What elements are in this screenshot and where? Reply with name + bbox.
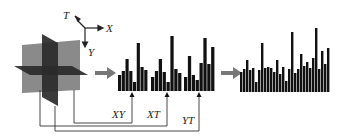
histogram-bar <box>196 80 199 91</box>
arrow-right-icon <box>221 67 242 79</box>
histogram-bar <box>291 32 293 92</box>
histogram-bar <box>285 81 287 92</box>
histogram-bar <box>118 75 121 91</box>
histogram-bar <box>270 68 272 92</box>
histogram-bar <box>309 68 311 92</box>
diagram: T X Y XY XT YT <box>0 0 339 140</box>
histogram-bar <box>312 58 314 92</box>
histogram-bar <box>246 60 248 92</box>
plane-label-yt: YT <box>182 114 195 126</box>
histogram-bar <box>294 73 296 92</box>
histogram-bar <box>282 67 284 92</box>
plane-label-xt: XT <box>146 108 161 120</box>
video-volume-planes <box>14 34 88 106</box>
histogram-bar <box>184 77 187 91</box>
histogram-bar <box>174 69 177 91</box>
histogram-bar <box>155 71 158 91</box>
histogram-bar <box>203 38 206 91</box>
histogram-bar <box>324 64 326 92</box>
histogram-bar <box>252 68 254 92</box>
histogram-yt <box>184 38 214 91</box>
histogram-bar <box>192 75 195 91</box>
histogram-bar <box>249 70 251 92</box>
histogram-bar <box>255 82 257 92</box>
histogram-xy <box>118 43 147 91</box>
histogram-bar <box>315 28 317 92</box>
histogram-bar <box>167 82 170 91</box>
histogram-bar <box>264 68 266 92</box>
histogram-bar <box>207 64 210 91</box>
histogram-bar <box>288 69 290 92</box>
histogram-bar <box>141 67 144 91</box>
histogram-bar <box>258 70 260 92</box>
histogram-bar <box>303 66 305 92</box>
histogram-bar <box>159 59 162 91</box>
histogram-bar <box>122 71 125 91</box>
axis-label-t: T <box>63 9 70 21</box>
histogram-bar <box>273 72 275 92</box>
histogram-bar <box>170 36 173 91</box>
histogram-bar <box>188 56 191 91</box>
histogram-bar <box>321 51 323 92</box>
histogram-bar <box>261 43 263 92</box>
arrow-up-icon <box>130 92 202 97</box>
histogram-bar <box>327 48 329 92</box>
histogram-bar <box>133 82 136 91</box>
histogram-bar <box>163 72 166 91</box>
histogram-bar <box>267 67 269 92</box>
histogram-bar <box>151 77 154 91</box>
axis-label-y: Y <box>88 46 96 58</box>
histogram-bar <box>144 70 147 91</box>
histogram-xt <box>151 36 181 91</box>
histogram-bar <box>276 60 278 92</box>
histogram-bar <box>318 69 320 92</box>
histogram-bar <box>279 74 281 92</box>
lbp-top-diagram: T X Y XY XT YT <box>0 0 339 140</box>
histogram-bar <box>297 69 299 92</box>
histogram-bar <box>300 54 302 92</box>
plane-label-xy: XY <box>111 108 127 120</box>
histogram-bar <box>129 71 132 91</box>
histogram-bar <box>243 69 245 92</box>
histogram-bar <box>178 73 181 91</box>
histogram-bar <box>137 43 140 91</box>
arrow-right-icon <box>95 67 116 79</box>
histogram-concatenated <box>240 28 329 92</box>
histogram-bar <box>211 47 214 91</box>
histogram-bar <box>240 72 242 92</box>
histogram-bar <box>126 59 129 91</box>
histogram-bar <box>306 62 308 92</box>
histogram-bar <box>200 63 203 91</box>
axis-label-x: X <box>105 22 114 34</box>
